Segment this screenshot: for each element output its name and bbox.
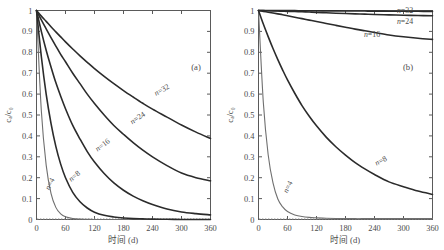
y-tick-label: 0 — [28, 216, 32, 225]
curve-label-n32: n=32 — [397, 6, 413, 15]
chart-svg-a: 060120180240300360 00.10.20.30.40.50.60.… — [0, 0, 222, 250]
x-tick-label: 300 — [175, 224, 188, 233]
y-tick-label: 0.4 — [244, 132, 255, 141]
y-tick-label: 0.5 — [22, 111, 32, 120]
y-tick-label: 1 — [28, 7, 32, 16]
curve-n8 — [259, 11, 433, 195]
chart-panel-a: 060120180240300360 00.10.20.30.40.50.60.… — [0, 0, 222, 250]
data-curves — [37, 11, 211, 220]
curve-label-n32: n=32 — [153, 82, 172, 98]
plot-area-b: 060120180240300360 00.10.20.30.40.50.60.… — [244, 7, 439, 233]
y-tick-label: 0.7 — [244, 69, 254, 78]
chart-panel-b: 060120180240300360 00.10.20.30.40.50.60.… — [222, 0, 444, 250]
y-axis-tick-labels: 00.10.20.30.40.50.60.70.80.91 — [244, 7, 255, 225]
x-axis-tick-labels: 060120180240300360 — [256, 224, 438, 233]
x-tick-label: 0 — [34, 224, 38, 233]
y-tick-label: 0.2 — [22, 174, 32, 183]
y-axis-title: cₐ/c₀ — [225, 107, 235, 122]
curve-labels: n=4n=8n=16n=24n=32 — [281, 6, 413, 194]
y-tick-label: 0.6 — [22, 90, 32, 99]
y-tick-label: 0.2 — [244, 174, 254, 183]
curve-label-n8: n=8 — [67, 169, 82, 184]
y-tick-label: 0.3 — [22, 153, 32, 162]
y-tick-label: 0.6 — [244, 90, 254, 99]
curve-label-n8: n=8 — [373, 154, 388, 168]
x-axis-ticks — [37, 11, 211, 220]
x-axis-title: 时间 (d) — [330, 234, 360, 245]
y-tick-label: 0.8 — [22, 48, 32, 57]
x-tick-label: 300 — [397, 224, 410, 233]
panel-tag-a: (a) — [191, 62, 201, 72]
x-tick-label: 180 — [117, 224, 130, 233]
curve-label-n4: n=4 — [43, 176, 57, 191]
y-tick-label: 0.9 — [244, 27, 254, 36]
x-tick-label: 120 — [88, 224, 101, 233]
y-axis-ticks — [37, 11, 211, 220]
y-tick-label: 0.4 — [22, 132, 33, 141]
curve-label-n16: n=16 — [364, 30, 380, 39]
x-tick-label: 360 — [426, 224, 439, 233]
curve-label-n24: n=24 — [128, 110, 146, 127]
figure-container: 060120180240300360 00.10.20.30.40.50.60.… — [0, 0, 444, 250]
curve-n4 — [37, 11, 211, 220]
x-tick-label: 360 — [204, 224, 217, 233]
curve-n32 — [37, 11, 211, 139]
y-tick-label: 1 — [250, 7, 254, 16]
y-tick-label: 0.9 — [22, 27, 32, 36]
plot-area-a: 060120180240300360 00.10.20.30.40.50.60.… — [22, 7, 217, 233]
chart-svg-b: 060120180240300360 00.10.20.30.40.50.60.… — [222, 0, 444, 250]
curve-n8 — [37, 11, 211, 220]
curve-n24 — [37, 11, 211, 181]
y-tick-label: 0.7 — [22, 69, 32, 78]
x-tick-label: 240 — [368, 224, 381, 233]
y-tick-label: 0 — [250, 216, 254, 225]
plot-frame — [37, 11, 211, 220]
x-tick-label: 120 — [310, 224, 323, 233]
curve-n16 — [37, 11, 211, 215]
x-axis-tick-labels: 060120180240300360 — [34, 224, 216, 233]
y-tick-label: 0.5 — [244, 111, 254, 120]
y-tick-label: 0.1 — [22, 195, 32, 204]
x-axis-title: 时间 (d) — [108, 234, 138, 245]
x-tick-label: 180 — [339, 224, 352, 233]
y-axis-title: cₐ/c₀ — [3, 107, 13, 122]
curve-label-n16: n=16 — [93, 137, 111, 154]
x-tick-label: 240 — [146, 224, 159, 233]
y-tick-label: 0.8 — [244, 48, 254, 57]
x-tick-label: 60 — [61, 224, 69, 233]
panel-tag-b: (b) — [403, 62, 413, 72]
curve-label-n24: n=24 — [397, 17, 413, 26]
x-tick-label: 0 — [256, 224, 260, 233]
y-tick-label: 0.1 — [244, 195, 254, 204]
y-tick-label: 0.3 — [244, 153, 254, 162]
x-tick-label: 60 — [283, 224, 291, 233]
curve-label-n4: n=4 — [281, 179, 295, 194]
y-axis-tick-labels: 00.10.20.30.40.50.60.70.80.91 — [22, 7, 33, 225]
